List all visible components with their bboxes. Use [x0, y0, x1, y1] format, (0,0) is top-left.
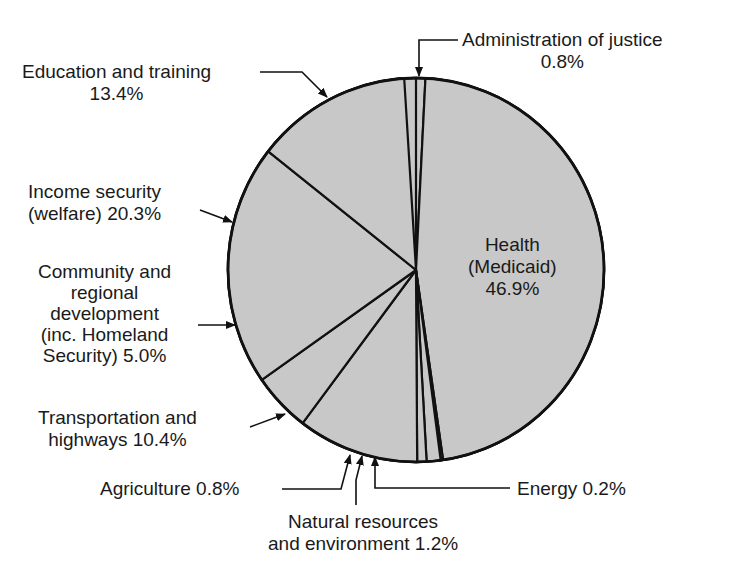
label-community-line1: Community and	[38, 261, 171, 282]
label-natural-line2: and environment 1.2%	[268, 533, 458, 555]
label-education-name: Education and training	[22, 61, 211, 83]
label-community-line2: regional	[38, 282, 171, 303]
label-agriculture: Agriculture 0.8%	[100, 478, 239, 500]
leader-arrow-transport	[250, 414, 285, 427]
label-health-line3: 46.9%	[468, 278, 557, 300]
leader-arrow-income	[200, 210, 232, 222]
label-community-line4: (inc. Homeland	[38, 324, 171, 345]
label-natural: Natural resources and environment 1.2%	[268, 511, 458, 555]
label-transport-line2: highways 10.4%	[38, 429, 197, 451]
label-health-line1: Health	[468, 234, 557, 256]
label-income-line1: Income security	[28, 181, 161, 203]
leader-arrow-education	[260, 72, 327, 97]
label-community-line3: development	[38, 303, 171, 324]
label-education-value: 13.4%	[22, 83, 211, 105]
label-transport-line1: Transportation and	[38, 407, 197, 429]
label-income: Income security (welfare) 20.3%	[28, 181, 161, 225]
label-education: Education and training 13.4%	[22, 61, 211, 105]
label-community: Community and regional development (inc.…	[38, 261, 171, 366]
label-health-line2: (Medicaid)	[468, 256, 557, 278]
label-admin-value: 0.8%	[462, 51, 663, 73]
label-transport: Transportation and highways 10.4%	[38, 407, 197, 451]
label-community-line5: Security) 5.0%	[38, 345, 171, 366]
label-energy: Energy 0.2%	[517, 478, 626, 500]
leader-arrow-natural	[356, 456, 362, 505]
label-income-line2: (welfare) 20.3%	[28, 203, 161, 225]
label-energy-line1: Energy 0.2%	[517, 478, 626, 500]
label-health: Health (Medicaid) 46.9%	[468, 234, 557, 300]
leader-arrow-admin	[419, 40, 458, 76]
label-agriculture-line1: Agriculture 0.8%	[100, 478, 239, 500]
label-admin: Administration of justice 0.8%	[462, 29, 663, 73]
label-admin-name: Administration of justice	[462, 29, 663, 51]
label-natural-line1: Natural resources	[268, 511, 458, 533]
leader-arrow-agriculture	[282, 455, 350, 489]
